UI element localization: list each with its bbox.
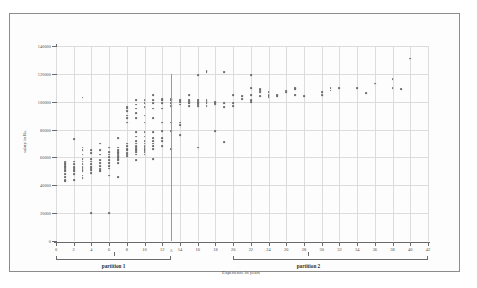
data-point [161,145,163,147]
gridline-vertical [339,46,340,241]
data-point [117,176,119,178]
data-point [215,130,217,132]
data-point [126,143,128,145]
x-axis-tick [198,242,199,246]
plot-area [56,46,428,241]
gridline-vertical [393,46,394,241]
data-point [250,99,252,101]
x-axis-tick-label: 20 [231,247,235,252]
data-point [356,87,358,89]
data-point [179,122,181,124]
data-point [197,99,199,101]
data-point [73,173,75,175]
gridline-horizontal [56,157,428,158]
gridline-vertical [180,46,181,241]
data-point [179,124,181,126]
data-point [223,72,225,74]
partition-divider-line [171,74,172,241]
data-point [135,136,137,138]
data-point [82,175,84,177]
x-axis-tick [162,242,163,246]
data-point [250,87,252,89]
y-axis-tick-label: 20000 [40,211,51,216]
gridline-vertical [304,46,305,241]
data-point [215,101,217,103]
gridline-horizontal [56,102,428,103]
data-point [144,102,146,104]
gridline-vertical [74,46,75,241]
data-point [82,158,84,160]
data-point [108,175,110,177]
data-point [91,158,93,160]
data-point [64,180,66,182]
x-axis-tick [410,242,411,246]
data-point [73,163,75,165]
data-point [161,98,163,100]
data-point [144,115,146,117]
data-point [135,159,137,161]
data-point [126,122,128,124]
data-point [161,102,163,104]
gridline-horizontal [56,130,428,131]
data-point [401,88,403,90]
data-point [188,94,190,96]
x-axis-tick [127,242,128,246]
data-point [285,90,287,92]
data-point [82,166,84,168]
x-axis-tick-label: 40 [408,247,412,252]
gridline-vertical [215,46,216,241]
data-point [135,145,137,147]
data-point [108,168,110,170]
data-point [108,162,110,164]
data-point [144,145,146,147]
x-axis-tick-label: 0 [55,247,57,252]
x-axis-tick-label: 38 [390,247,394,252]
data-point [232,94,234,96]
data-point [117,137,119,139]
data-point [135,99,137,101]
data-point [91,163,93,165]
gridline-horizontal [56,185,428,186]
data-point [126,152,128,154]
data-point [126,148,128,150]
data-point [374,83,376,85]
data-point [135,143,137,145]
x-axis-tick [74,242,75,246]
x-axis-tick-label: 32 [337,247,341,252]
data-point [206,70,208,72]
x-axis-tick [286,242,287,246]
data-point [126,106,128,108]
gridline-vertical [375,46,376,241]
data-point [73,179,75,181]
data-point [161,108,163,110]
x-axis-tick-label: 10 [142,247,146,252]
data-point [250,74,252,76]
x-axis-tick [233,242,234,246]
data-point [99,150,101,152]
y-axis-tick-label: 140000 [38,44,51,49]
data-point [64,173,66,175]
data-point [241,95,243,97]
data-point [108,159,110,161]
x-axis-tick-label: 28 [302,247,306,252]
x-axis-tick-label: 8 [126,247,128,252]
data-point [303,95,305,97]
data-point [144,140,146,142]
x-axis-tick [109,242,110,246]
data-point [161,130,163,132]
x-axis-tick-label: 34 [355,247,359,252]
data-point [73,161,75,163]
data-point [144,131,146,133]
y-axis-tick-label: 100000 [38,99,51,104]
x-axis-tick-label: 18 [213,247,217,252]
data-point [64,176,66,178]
x-axis-tick [322,242,323,246]
data-point [179,134,181,136]
data-point [241,98,243,100]
x-axis-tick [215,242,216,246]
partition-label-1: partition 1 [102,263,126,269]
x-axis-tick-label: 12 [160,247,164,252]
data-point [197,74,199,76]
data-point [206,105,208,107]
partition-divider-caret: Λ [170,248,173,253]
